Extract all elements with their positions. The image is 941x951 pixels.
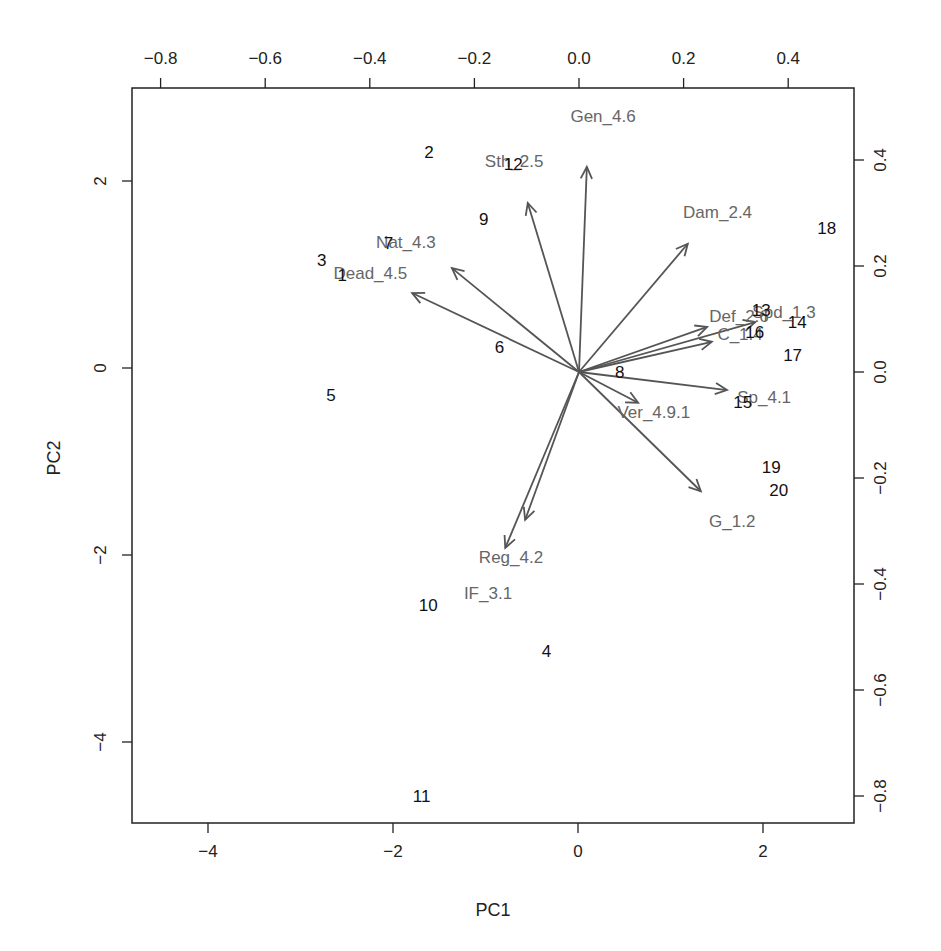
observation-label: 8 (615, 363, 624, 382)
biplot-chart: −4−202 −4−202 −0.8−0.6−0.4−0.20.00.20.4 … (0, 0, 941, 951)
y-tick-label: 0 (91, 363, 110, 372)
top-tick-label: −0.8 (144, 49, 178, 68)
right-tick-label: 0.4 (871, 148, 890, 172)
x-tick-label: −2 (383, 842, 402, 861)
y-axis-title: PC2 (44, 440, 64, 475)
observation-label: 13 (752, 301, 771, 320)
observation-label: 16 (745, 323, 764, 342)
loading-label: Dam_2.4 (683, 203, 752, 222)
right-tick-label: −0.2 (871, 461, 890, 495)
y-tick-label: −4 (91, 732, 110, 751)
right-axis: −0.8−0.6−0.4−0.20.00.20.4 (854, 148, 890, 813)
plot-frame (132, 88, 854, 823)
loading-label: Reg_4.2 (479, 548, 543, 567)
observation-label: 14 (788, 313, 807, 332)
observation-label: 4 (542, 642, 551, 661)
y-tick-label: 2 (91, 176, 110, 185)
observation-label: 2 (424, 143, 433, 162)
observation-label: 12 (504, 155, 523, 174)
loading-arrow (526, 203, 579, 372)
right-tick-label: −0.8 (871, 779, 890, 813)
bottom-axis: −4−202 (198, 823, 767, 861)
right-tick-label: −0.4 (871, 567, 890, 601)
observation-label: 1 (337, 266, 346, 285)
top-axis: −0.8−0.6−0.4−0.20.00.20.4 (144, 49, 800, 88)
loading-label: IF_3.1 (464, 584, 512, 603)
top-tick-label: 0.4 (776, 49, 800, 68)
observation-label: 3 (317, 251, 326, 270)
observation-label: 7 (384, 234, 393, 253)
x-axis-title: PC1 (475, 900, 510, 920)
observation-label: 10 (419, 596, 438, 615)
observation-label: 6 (495, 338, 504, 357)
loading-arrow (579, 372, 701, 491)
loading-arrow (579, 167, 592, 372)
top-tick-label: −0.2 (458, 49, 492, 68)
observation-label: 9 (479, 210, 488, 229)
observation-label: 15 (733, 393, 752, 412)
right-tick-label: 0.2 (871, 254, 890, 278)
loading-arrow (579, 339, 712, 372)
top-tick-label: −0.4 (353, 49, 387, 68)
observation-label: 5 (326, 386, 335, 405)
right-tick-label: −0.6 (871, 673, 890, 707)
loading-label: Gen_4.6 (570, 107, 635, 126)
loading-label: G_1.2 (709, 512, 755, 531)
left-axis: −4−202 (91, 176, 132, 751)
observation-label: 18 (817, 219, 836, 238)
observation-label: 11 (413, 787, 431, 806)
right-tick-label: 0.0 (871, 360, 890, 384)
y-tick-label: −2 (91, 545, 110, 564)
observation-label: 20 (769, 481, 788, 500)
x-tick-label: 2 (758, 842, 767, 861)
top-tick-label: −0.6 (248, 49, 282, 68)
top-tick-label: 0.0 (567, 49, 591, 68)
observation-label: 17 (783, 346, 802, 365)
loading-label: Ver_4.9.1 (617, 403, 690, 422)
loading-arrow (505, 372, 579, 548)
top-tick-label: 0.2 (672, 49, 696, 68)
loading-arrow (524, 372, 579, 520)
loading-arrow (579, 372, 638, 403)
x-tick-label: −4 (198, 842, 217, 861)
observation-label: 19 (762, 458, 781, 477)
loading-arrows (412, 167, 755, 548)
x-tick-label: 0 (573, 842, 582, 861)
